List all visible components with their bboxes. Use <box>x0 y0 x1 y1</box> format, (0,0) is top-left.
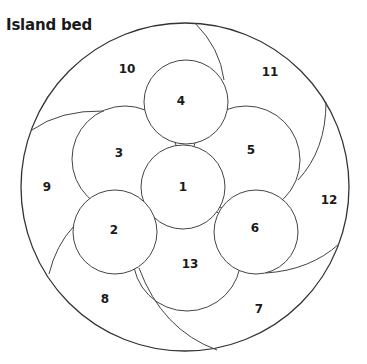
label-6: 6 <box>251 221 259 235</box>
label-7: 7 <box>255 302 263 316</box>
arc-9-10 <box>32 111 104 130</box>
label-13: 13 <box>182 257 199 271</box>
label-1: 1 <box>179 180 187 194</box>
label-12: 12 <box>321 193 338 207</box>
arc-8-9 <box>49 226 74 274</box>
island-bed-diagram: 1 2 3 4 5 6 7 8 9 10 11 12 13 <box>0 0 367 364</box>
label-10: 10 <box>119 62 136 76</box>
label-3: 3 <box>115 146 123 160</box>
label-8: 8 <box>101 292 109 306</box>
arc-7-8 <box>139 268 217 350</box>
arc-11-12 <box>298 102 326 180</box>
label-9: 9 <box>43 180 51 194</box>
label-11: 11 <box>262 65 279 79</box>
label-5: 5 <box>247 143 255 157</box>
bed-circle-4 <box>144 60 228 144</box>
label-4: 4 <box>177 94 185 108</box>
label-2: 2 <box>110 223 118 237</box>
